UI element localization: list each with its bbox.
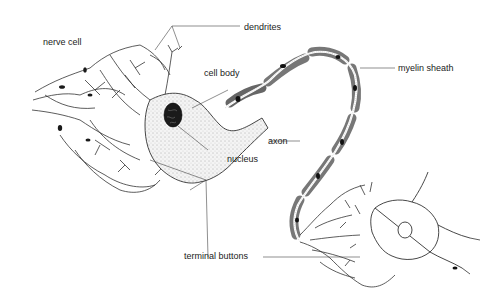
label-terminal-buttons: terminal buttons xyxy=(184,251,248,261)
cell-body-shape xyxy=(145,93,268,183)
receiving-nucleus xyxy=(398,222,412,238)
label-axon: axon xyxy=(268,136,288,146)
nucleus-shape xyxy=(164,103,182,127)
label-myelin-sheath: myelin sheath xyxy=(398,63,454,73)
label-cell-body: cell body xyxy=(204,68,240,78)
label-dendrites: dendrites xyxy=(244,22,281,32)
nerve-cell-diagram: nerve cell dendrites cell body myelin sh… xyxy=(0,0,489,305)
label-nucleus: nucleus xyxy=(227,154,258,164)
diagram-title: nerve cell xyxy=(43,37,82,47)
receiving-cell-body xyxy=(371,172,470,268)
